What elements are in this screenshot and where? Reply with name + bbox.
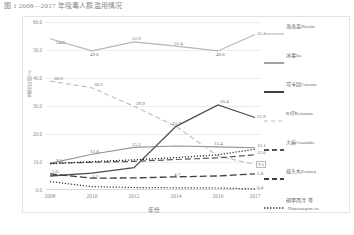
- legend-line-ice-icon: [264, 54, 284, 64]
- y-tick-2: 40.0: [18, 76, 42, 81]
- label-end-ecstasy: 5.8: [257, 171, 263, 176]
- legend-label-ecstasy-cn: 摇头丸: [286, 169, 301, 174]
- legend-label-nimetazepam-cn: 硝甲西泮 等: [286, 198, 313, 203]
- label-ketamine-2010: 36.5: [94, 82, 103, 87]
- y-tick-1: 50.0: [18, 48, 42, 53]
- x-tick-2008: 2008: [35, 194, 65, 199]
- legend-item-ketamine[interactable]: K仔Ketamine: [264, 111, 352, 127]
- legend-item-cannabis[interactable]: 大麻Cannabis: [264, 140, 352, 156]
- legend-label-ketamine-cn: K仔: [286, 111, 295, 116]
- legend-line-ketamine-icon: [264, 112, 284, 122]
- legend-line-cannabis-icon: [264, 141, 284, 151]
- label-ketamine-2012: 29.9: [136, 101, 145, 106]
- x-tick-2016: 2016: [203, 194, 233, 199]
- legend-item-cocaine[interactable]: 可卡因Cocaine: [264, 82, 352, 98]
- legend-label-heroin-en: Heroin: [301, 24, 314, 29]
- legend-label-cannabis-cn: 大麻: [286, 140, 296, 145]
- line-heroin: [50, 35, 255, 51]
- label-heroin-2014: 51.4: [174, 41, 183, 46]
- x-tick-2010: 2010: [77, 194, 107, 199]
- legend-item-nimetazepam[interactable]: 硝甲西泮 等 Nimetazepam etc.: [264, 198, 352, 214]
- label-heroin-2010: 49.6: [90, 52, 99, 57]
- label-heroin-2016: 49.6: [216, 52, 225, 57]
- legend-label-nimetazepam-en: Nimetazepam etc.: [288, 206, 320, 211]
- legend-label-heroin-cn: 海洛英: [286, 24, 301, 29]
- legend-label-ice-cn: 冰毒: [286, 53, 296, 58]
- figure-title: 图 1 2008—2017 年吸毒人群滥用情况: [4, 0, 254, 12]
- legend-item-ice[interactable]: 冰毒Ice: [264, 53, 352, 69]
- label-heroin-2008: 54.0: [56, 40, 65, 45]
- y-tick-4: 20.0: [18, 132, 42, 137]
- legend-label-cocaine-en: Cocaine: [301, 82, 317, 87]
- line-cocaine: [50, 105, 255, 176]
- legend-label-ketamine-en: Ketamine: [295, 111, 314, 116]
- x-tick-2014: 2014: [161, 194, 191, 199]
- label-end-nimetazepam: 0.4: [257, 185, 263, 190]
- line-ketamine: [50, 81, 255, 164]
- plot-area: 60.0 50.0 40.0 30.0 20.0 10.0 0.0 54.0 4…: [46, 22, 261, 190]
- legend-item-ecstasy[interactable]: 摇头丸Ecstacy: [264, 169, 352, 185]
- label-ice-2012: 15.2: [132, 142, 141, 147]
- series-lines: [46, 22, 261, 190]
- chart-legend: 海洛英Heroin 冰毒Ice 可卡因Cocaine K仔Ket: [264, 20, 352, 212]
- label-ice-2016: 15.4: [214, 141, 223, 146]
- y-tick-3: 30.0: [18, 104, 42, 109]
- line-nimetazepam: [50, 182, 255, 189]
- x-tick-2012: 2012: [119, 194, 149, 199]
- label-ice-2010: 12.8: [90, 149, 99, 154]
- label-ecstasy-2010: 4.2: [92, 174, 98, 179]
- label-cocaine-2008: 5.0: [52, 169, 58, 174]
- y-tick-6: 0.0: [18, 188, 42, 193]
- y-tick-5: 10.0: [18, 160, 42, 165]
- label-heroin-2012: 52.9: [132, 36, 141, 41]
- y-axis-label: 滥用比例/%: [26, 70, 33, 97]
- legend-line-cocaine-icon: [264, 83, 284, 93]
- label-cocaine-2016: 30.4: [220, 99, 229, 104]
- legend-item-heroin[interactable]: 海洛英Heroin: [264, 24, 352, 40]
- legend-label-cocaine-cn: 可卡因: [286, 82, 301, 87]
- label-ecstasy-2014: 4.7: [174, 172, 180, 177]
- legend-label-cannabis-en: Cannabis: [296, 140, 314, 145]
- legend-line-heroin-icon: [264, 25, 284, 35]
- legend-label-ice-en: Ice: [296, 53, 302, 58]
- legend-line-ecstasy-icon: [264, 170, 284, 180]
- legend-line-nimetazepam-icon: [264, 199, 284, 209]
- label-ketamine-2008: 38.9: [54, 76, 63, 81]
- y-tick-0: 60.0: [18, 20, 42, 25]
- label-ice-2008: 9.5: [56, 158, 62, 163]
- label-ketamine-2014: 22.7: [172, 121, 181, 126]
- figure-container: 图 1 2008—2017 年吸毒人群滥用情况 滥用比例/% 60.0 50.0…: [0, 0, 354, 235]
- x-axis-label: 年份: [46, 206, 261, 214]
- legend-label-ecstasy-en: Ecstacy: [301, 169, 316, 174]
